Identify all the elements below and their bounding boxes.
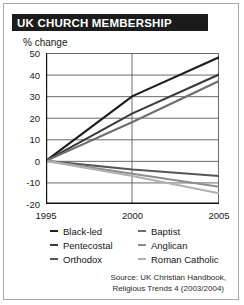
source-line-1: Source: UK Christian Handbook, xyxy=(110,272,226,283)
legend-item[interactable]: Orthodox xyxy=(50,254,138,265)
y-axis-tick-label: 0 xyxy=(14,155,40,166)
y-axis-tick-label: 10 xyxy=(14,134,40,145)
x-axis-tick-label: 1995 xyxy=(26,210,66,221)
page-title: UK CHURCH MEMBERSHIP xyxy=(12,17,172,29)
legend-item[interactable]: Pentecostal xyxy=(50,240,138,251)
legend-label: Black-led xyxy=(63,226,102,237)
y-axis-tick-label: 20 xyxy=(14,112,40,123)
legend-item[interactable]: Baptist xyxy=(138,226,230,237)
y-axis-label: % change xyxy=(23,37,67,48)
chart-title-bar: UK CHURCH MEMBERSHIP xyxy=(12,14,208,31)
plot-area xyxy=(46,53,219,204)
legend-label: Pentecostal xyxy=(63,240,113,251)
y-axis-tick-label: 40 xyxy=(14,69,40,80)
legend-swatch-icon xyxy=(138,230,146,233)
legend-swatch-icon xyxy=(50,230,58,233)
legend-label: Roman Catholic xyxy=(151,254,219,265)
y-axis-tick-label: -20 xyxy=(14,199,40,210)
series-line-black-led xyxy=(46,57,219,161)
legend-row: Black-ledBaptist xyxy=(50,224,230,238)
series-line-pentecostal xyxy=(46,75,219,161)
legend-label: Orthodox xyxy=(63,254,102,265)
legend-swatch-icon xyxy=(50,258,58,261)
x-axis-tick-label: 2005 xyxy=(199,210,239,221)
legend-item[interactable]: Anglican xyxy=(138,240,230,251)
y-axis-tick-label: 30 xyxy=(14,91,40,102)
y-axis-tick-label: -10 xyxy=(14,177,40,188)
series-line-baptist xyxy=(46,81,219,161)
legend-item[interactable]: Black-led xyxy=(50,226,138,237)
legend-label: Anglican xyxy=(151,240,187,251)
legend-label: Baptist xyxy=(151,226,180,237)
y-axis-tick-label: 50 xyxy=(14,48,40,59)
source-line-2: Religious Trends 4 (2003/2004) xyxy=(110,283,226,294)
series-line-roman-catholic xyxy=(46,161,219,193)
legend-swatch-icon xyxy=(138,244,146,247)
legend-swatch-icon xyxy=(50,244,58,247)
chart-legend: Black-ledBaptistPentecostalAnglicanOrtho… xyxy=(50,224,230,266)
x-axis-tick-label: 2000 xyxy=(113,210,153,221)
legend-swatch-icon xyxy=(138,258,146,261)
source-note: Source: UK Christian Handbook, Religious… xyxy=(110,272,226,294)
line-chart-svg xyxy=(46,53,219,204)
legend-row: PentecostalAnglican xyxy=(50,238,230,252)
legend-row: OrthodoxRoman Catholic xyxy=(50,252,230,266)
legend-item[interactable]: Roman Catholic xyxy=(138,254,230,265)
chart-frame: UK CHURCH MEMBERSHIP % change 5040302010… xyxy=(3,3,239,300)
